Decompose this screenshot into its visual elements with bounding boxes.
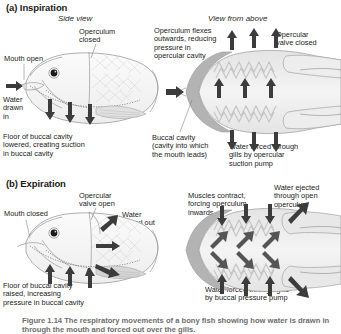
leader-buccal-cavity xyxy=(180,100,192,132)
arrow-opercular-valve-closed xyxy=(263,28,272,46)
fish-top-view-expiration xyxy=(186,208,341,291)
section-expiration: (b) Expiration Opercular valve open Mout… xyxy=(0,176,341,324)
figure-caption: Figure 1.14 The respiratory movements of… xyxy=(22,316,332,334)
arrows-operculum-flex-up xyxy=(227,28,281,50)
expiration-illustration xyxy=(0,176,341,324)
arrow-water-in-top xyxy=(166,86,184,98)
leader-mouth-closed xyxy=(26,220,30,238)
inspiration-illustration xyxy=(0,0,341,176)
fish-top-view-inspiration xyxy=(180,50,341,133)
section-inspiration: (a) Inspiration Side view View from abov… xyxy=(0,0,341,176)
fish-side-view-inspiration xyxy=(17,52,158,123)
arrow-water-in-side xyxy=(6,81,23,91)
